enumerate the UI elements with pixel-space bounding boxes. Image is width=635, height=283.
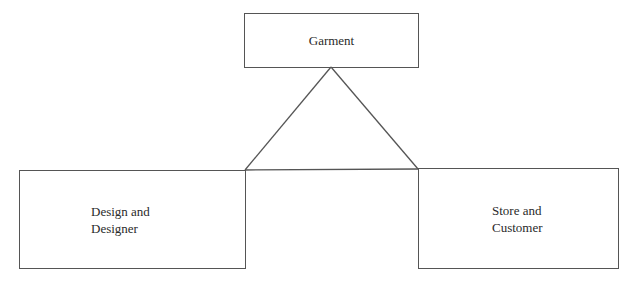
garment-label-line-1: Garment — [309, 33, 354, 48]
edge-garment-store — [331, 67, 418, 169]
store-label-line-1: Store and — [492, 202, 543, 219]
design-label-line-1: Design and — [91, 203, 150, 220]
store-label-line-2: Customer — [492, 219, 543, 236]
edge-garment-design — [245, 67, 331, 170]
node-design-designer-label: Design and Designer — [91, 203, 150, 237]
node-garment-label: Garment — [244, 32, 419, 49]
node-store-customer-label: Store and Customer — [492, 202, 543, 236]
design-label-line-2: Designer — [91, 220, 150, 237]
edge-design-store — [245, 169, 418, 170]
